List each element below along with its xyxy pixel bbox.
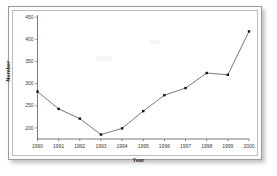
series-line-number [38,31,250,134]
data-point-marker [36,90,38,92]
scan-artifact [150,40,160,44]
y-tick-label: 250 [25,102,34,108]
y-axis-tick-labels: 200250300350400450 [25,14,34,131]
y-tick-label: 200 [25,125,34,131]
y-tick-label: 350 [25,58,34,64]
y-axis-title: Number [5,47,11,95]
x-tick-label: 1997 [180,143,191,149]
x-tick-label: 2000 [243,143,254,149]
y-tick-label: 300 [25,80,34,86]
data-point-marker [142,110,144,112]
figure-container: 200250300350400450 199019911992199319941… [0,0,277,176]
y-tick-label: 450 [25,14,34,20]
scan-artifact [96,56,112,61]
x-tick-label: 1998 [201,143,212,149]
x-tick-label: 1992 [74,143,85,149]
data-point-marker [248,30,250,32]
x-tick-label: 1994 [117,143,128,149]
data-point-marker [227,74,229,76]
data-point-marker [163,94,165,96]
x-tick-label: 1993 [95,143,106,149]
x-tick-label: 1990 [32,143,43,149]
chart-canvas: 200250300350400450 199019911992199319941… [0,0,277,176]
x-tick-label: 1996 [159,143,170,149]
data-point-marker [121,127,123,129]
y-tick-label: 400 [25,36,34,42]
x-tick-label: 1995 [138,143,149,149]
x-axis-title: Year [0,157,277,163]
x-tick-label: 1999 [222,143,233,149]
x-tick-label: 1991 [53,143,64,149]
data-point-marker [184,87,186,89]
x-axis-tick-labels: 1990199119921993199419951996199719981999… [32,143,255,149]
data-point-marker [57,108,59,110]
data-point-marker [79,117,81,119]
data-point-marker [206,72,208,74]
series-markers-number [36,30,250,136]
data-point-marker [100,133,102,135]
